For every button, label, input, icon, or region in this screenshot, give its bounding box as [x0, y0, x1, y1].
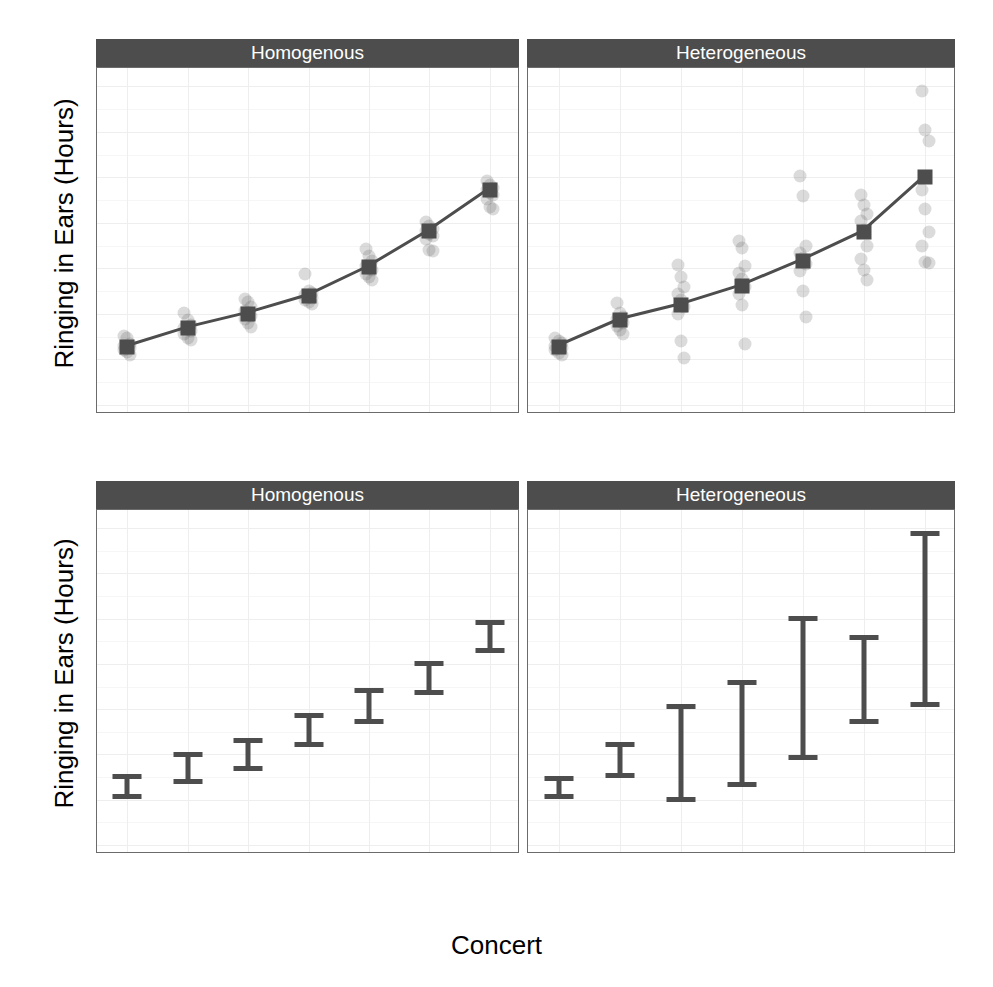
gridline-h-minor: [528, 596, 954, 597]
gridline-h-minor: [528, 641, 954, 642]
y-tick-mark: [96, 800, 97, 801]
error-bar-brighton: [617, 744, 622, 775]
error-bar-cap-lower: [544, 794, 573, 799]
mean-marker: [612, 313, 627, 328]
error-bar-cap-upper: [911, 531, 940, 536]
x-tick-mark: [925, 412, 926, 413]
error-bar-cap-upper: [113, 774, 142, 779]
x-tick-mark: [803, 412, 804, 413]
error-bar-cap-lower: [294, 742, 323, 747]
gridline-h: [97, 845, 518, 846]
strip-header-top-right: Heterogeneous: [527, 39, 955, 67]
error-bar-edinburgh: [740, 682, 745, 784]
error-bar-brighton: [185, 754, 190, 781]
mean-marker: [422, 224, 437, 239]
error-bar-cap-upper: [789, 616, 818, 621]
strip-header-top-left: Homogenous: [96, 39, 519, 67]
gridline-v: [188, 510, 189, 852]
x-tick-mark: [309, 852, 310, 853]
mean-marker: [796, 253, 811, 268]
x-tick-mark: [864, 852, 865, 853]
y-tick-mark: [96, 619, 97, 620]
gridline-v: [127, 510, 128, 852]
mean-marker: [551, 339, 566, 354]
x-tick-mark: [803, 852, 804, 853]
error-bar-newcastle: [801, 618, 806, 757]
panel-top-left: Homogenous010203040506070BrixtonBrighton…: [96, 39, 519, 413]
y-tick-mark: [96, 845, 97, 846]
panel-bottom-left: Homogenous010203040506070BrixtonBrighton…: [96, 481, 519, 853]
x-tick-mark: [369, 412, 370, 413]
gridline-h-minor: [528, 551, 954, 552]
error-bar-cap-lower: [850, 719, 879, 724]
error-bar-cap-upper: [173, 752, 202, 757]
mean-marker: [241, 306, 256, 321]
x-tick-mark: [864, 412, 865, 413]
x-tick-mark: [681, 852, 682, 853]
error-bar-cap-upper: [728, 680, 757, 685]
gridline-h-minor: [97, 822, 518, 823]
x-tick-mark: [188, 412, 189, 413]
error-bar-cap-lower: [354, 719, 383, 724]
error-bar-cap-lower: [415, 690, 444, 695]
y-tick-mark: [96, 754, 97, 755]
x-tick-mark: [127, 852, 128, 853]
x-tick-mark: [681, 412, 682, 413]
strip-label: Heterogeneous: [676, 484, 806, 506]
x-tick-mark: [490, 852, 491, 853]
error-bar-cap-lower: [234, 766, 263, 771]
gridline-h: [97, 573, 518, 574]
gridline-h: [528, 528, 954, 529]
error-bar-cap-upper: [234, 738, 263, 743]
strip-label: Heterogeneous: [676, 42, 806, 64]
mean-marker: [361, 260, 376, 275]
gridline-h-minor: [97, 596, 518, 597]
mean-marker: [301, 289, 316, 304]
gridline-h: [97, 664, 518, 665]
x-tick-mark: [742, 412, 743, 413]
error-bar-cap-upper: [294, 713, 323, 718]
error-bar-dublin: [487, 622, 492, 650]
y-tick-mark: [96, 709, 97, 710]
error-bar-cap-lower: [911, 702, 940, 707]
error-bar-newcastle: [366, 690, 371, 721]
x-tick-mark: [559, 412, 560, 413]
gridline-v: [620, 510, 621, 852]
error-bar-cap-upper: [415, 661, 444, 666]
gridline-h: [528, 664, 954, 665]
error-bar-cap-lower: [113, 794, 142, 799]
x-tick-mark: [248, 852, 249, 853]
gridline-h-minor: [97, 641, 518, 642]
plot-area-bottom-left: 010203040506070BrixtonBrightonBristolEdi…: [96, 509, 519, 853]
gridline-h: [528, 573, 954, 574]
mean-marker: [857, 224, 872, 239]
plot-area-bottom-right: BrixtonBrightonBristolEdinburghNewcastle…: [527, 509, 955, 853]
error-bar-cardiff: [862, 637, 867, 721]
error-bar-bristol: [678, 706, 683, 799]
mean-marker: [120, 340, 135, 355]
error-bar-cap-lower: [173, 779, 202, 784]
gridline-h: [97, 619, 518, 620]
error-bar-edinburgh: [306, 715, 311, 744]
x-tick-mark: [309, 412, 310, 413]
error-bar-cap-upper: [354, 688, 383, 693]
panel-bottom-right: HeterogeneousBrixtonBrightonBristolEdinb…: [527, 481, 955, 853]
error-bar-cap-lower: [728, 782, 757, 787]
x-tick-mark: [369, 852, 370, 853]
y-tick-mark: [96, 664, 97, 665]
mean-marker: [673, 298, 688, 313]
error-bar-cardiff: [427, 663, 432, 692]
error-bar-cap-upper: [605, 742, 634, 747]
x-tick-mark: [127, 412, 128, 413]
y-tick-mark: [96, 573, 97, 574]
error-bar-bristol: [246, 740, 251, 768]
plot-area-top-left: 010203040506070BrixtonBrightonBristolEdi…: [96, 67, 519, 413]
gridline-h: [528, 619, 954, 620]
x-tick-mark: [188, 852, 189, 853]
gridline-h: [528, 800, 954, 801]
gridline-v: [369, 510, 370, 852]
strip-header-bottom-left: Homogenous: [96, 481, 519, 509]
mean-trend-line: [97, 68, 518, 412]
x-tick-mark: [429, 412, 430, 413]
mean-trend-line: [528, 68, 954, 412]
